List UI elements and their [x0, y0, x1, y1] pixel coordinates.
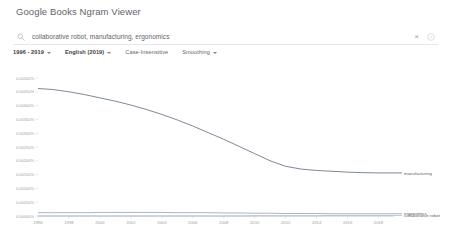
y-axis-tick-label: 0.00450%: [16, 89, 34, 94]
case-insensitive-toggle[interactable]: Case-Insensitive: [125, 49, 168, 55]
series-legend-label[interactable]: collaborative robot: [404, 213, 441, 218]
x-axis-tick-label: 2006: [188, 220, 198, 225]
x-axis-tick-label: 2002: [126, 220, 136, 225]
x-axis-tick-label: 2004: [157, 220, 167, 225]
y-axis-tick-label: 0.00500%: [16, 76, 34, 81]
x-axis-tick-label: 2010: [250, 220, 260, 225]
y-axis-tick-label: 0.00100%: [16, 186, 34, 191]
page-title: Google Books Ngram Viewer: [16, 6, 141, 17]
case-insensitive-label: Case-Insensitive: [125, 49, 168, 55]
x-axis-tick-label: 2016: [343, 220, 353, 225]
page-title-rest: Books Ngram Viewer: [47, 6, 141, 17]
clear-icon[interactable]: ×: [414, 33, 419, 41]
chevron-down-icon: [47, 52, 51, 54]
series-line[interactable]: [38, 212, 394, 213]
smoothing-selector[interactable]: Smoothing: [182, 49, 217, 55]
page-title-google: Google: [16, 6, 47, 17]
svg-text:?: ?: [430, 34, 433, 39]
ngram-chart[interactable]: 0.00500%0.00450%0.00400%0.00350%0.00300%…: [0, 66, 454, 238]
search-input[interactable]: collaborative robot, manufacturing, ergo…: [32, 33, 414, 40]
y-axis-tick-label: 0.00200%: [16, 158, 34, 163]
x-axis-tick-label: 2012: [281, 220, 291, 225]
search-bar[interactable]: collaborative robot, manufacturing, ergo…: [14, 29, 438, 45]
chart-svg: 0.00500%0.00450%0.00400%0.00350%0.00300%…: [0, 66, 454, 238]
corpus-selector[interactable]: English (2019): [65, 49, 111, 55]
x-axis-tick-label: 2018: [374, 220, 384, 225]
x-axis-tick-label: 1998: [64, 220, 74, 225]
year-range-selector[interactable]: 1996 - 2019: [13, 49, 51, 55]
year-range-label: 1996 - 2019: [13, 49, 44, 55]
x-axis-tick-label: 2000: [95, 220, 105, 225]
y-axis-tick-label: 0.00000%: [16, 214, 34, 219]
series-line[interactable]: [38, 88, 394, 172]
chart-controls: 1996 - 2019 English (2019) Case-Insensit…: [13, 49, 217, 55]
chevron-down-icon: [213, 52, 217, 54]
y-axis-tick-label: 0.00350%: [16, 117, 34, 122]
corpus-label: English (2019): [65, 49, 104, 55]
y-axis-tick-label: 0.00300%: [16, 131, 34, 136]
x-axis-tick-label: 2008: [219, 220, 229, 225]
y-axis-tick-label: 0.00400%: [16, 103, 34, 108]
y-axis-tick-label: 0.00150%: [16, 172, 34, 177]
chevron-down-icon: [107, 52, 111, 54]
y-axis-tick-label: 0.00050%: [16, 200, 34, 205]
search-icon: [17, 33, 25, 41]
x-axis-tick-label: 2014: [312, 220, 322, 225]
smoothing-label: Smoothing: [182, 49, 210, 55]
series-legend-label[interactable]: manufacturing: [404, 171, 432, 176]
help-circle-icon[interactable]: ?: [427, 33, 435, 41]
x-axis-tick-label: 1996: [33, 220, 43, 225]
y-axis-tick-label: 0.00250%: [16, 145, 34, 150]
